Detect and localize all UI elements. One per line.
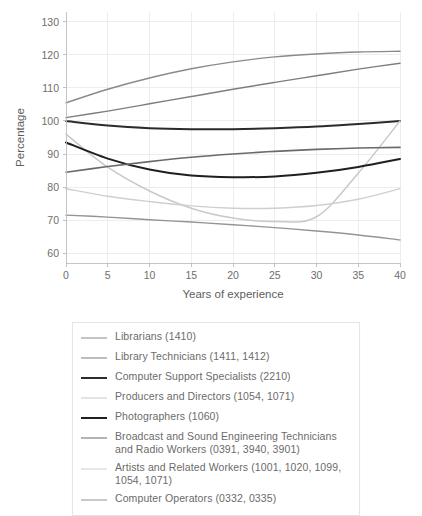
- x-axis-title: Years of experience: [182, 288, 283, 300]
- legend-line-swatch: [81, 352, 107, 364]
- y-tick-100: 100: [41, 115, 59, 127]
- legend-item[interactable]: Librarians (1410): [81, 330, 351, 344]
- legend-item[interactable]: Computer Operators (0332, 0335): [81, 492, 351, 506]
- legend-item[interactable]: Broadcast and Sound Engineering Technici…: [81, 430, 351, 455]
- y-axis-title: Percentage: [14, 108, 26, 167]
- y-tick-80: 80: [47, 181, 59, 193]
- x-tick-15: 15: [185, 269, 197, 281]
- legend-line-swatch: [81, 463, 107, 475]
- legend-item-label: Broadcast and Sound Engineering Technici…: [115, 430, 351, 455]
- line-chart-svg: 60708090100110120130 0510152025303540 Pe…: [0, 0, 422, 310]
- y-tick-60: 60: [47, 247, 59, 259]
- legend-item[interactable]: Photographers (1060): [81, 410, 351, 424]
- legend-line-swatch: [81, 412, 107, 424]
- axis-lines: [63, 12, 401, 267]
- x-tick-20: 20: [227, 269, 239, 281]
- legend-item[interactable]: Library Technicians (1411, 1412): [81, 350, 351, 364]
- x-tick-25: 25: [269, 269, 281, 281]
- legend-line-swatch: [81, 392, 107, 404]
- legend-item-label: Computer Operators (0332, 0335): [115, 492, 276, 505]
- legend-item-label: Computer Support Specialists (2210): [115, 370, 291, 383]
- legend-item-label: Photographers (1060): [115, 410, 219, 423]
- legend-item[interactable]: Producers and Directors (1054, 1071): [81, 390, 351, 404]
- legend-item[interactable]: Computer Support Specialists (2210): [81, 370, 351, 384]
- legend-line-swatch: [81, 432, 107, 444]
- y-tick-130: 130: [41, 16, 59, 28]
- y-tick-120: 120: [41, 49, 59, 61]
- chart-legend: Librarians (1410)Library Technicians (14…: [72, 322, 360, 516]
- x-tick-5: 5: [105, 269, 111, 281]
- legend-item-label: Producers and Directors (1054, 1071): [115, 390, 294, 403]
- legend-item-label: Librarians (1410): [115, 330, 196, 343]
- x-tick-0: 0: [63, 269, 69, 281]
- y-tick-90: 90: [47, 148, 59, 160]
- legend-item-label: Artists and Related Workers (1001, 1020,…: [115, 461, 351, 486]
- y-tick-110: 110: [42, 82, 59, 94]
- legend-item-label: Library Technicians (1411, 1412): [115, 350, 270, 363]
- legend-item[interactable]: Artists and Related Workers (1001, 1020,…: [81, 461, 351, 486]
- plot-area: 60708090100110120130 0510152025303540 Pe…: [0, 0, 422, 310]
- y-tick-70: 70: [47, 214, 59, 226]
- x-tick-30: 30: [311, 269, 323, 281]
- legend-line-swatch: [81, 372, 107, 384]
- legend-line-swatch: [81, 494, 107, 506]
- x-tick-labels: 0510152025303540: [63, 269, 406, 281]
- x-tick-10: 10: [144, 269, 156, 281]
- legend-line-swatch: [81, 332, 107, 344]
- x-tick-35: 35: [352, 269, 364, 281]
- x-tick-40: 40: [394, 269, 406, 281]
- y-tick-labels: 60708090100110120130: [41, 16, 59, 259]
